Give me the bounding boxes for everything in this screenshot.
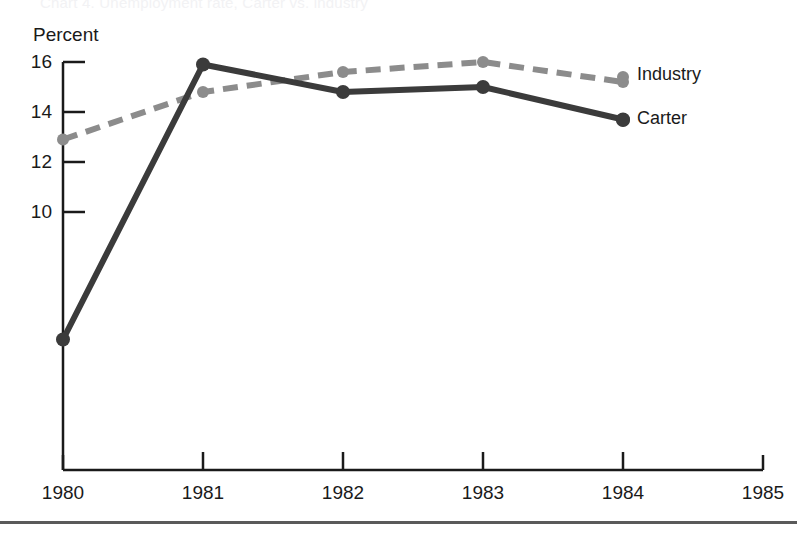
data-point-carter-1981: [196, 58, 210, 72]
line-chart-figure: Chart 4. Unemployment rate, Carter vs. i…: [0, 0, 797, 540]
data-point-carter-1983: [476, 80, 490, 94]
series-carter: [56, 58, 630, 347]
data-point-carter-1982: [336, 85, 350, 99]
data-point-industry-1983: [477, 56, 489, 68]
data-point-industry-1982: [337, 66, 349, 78]
plot-canvas: [0, 0, 797, 540]
data-point-industry-1980: [57, 134, 69, 146]
bottom-divider-rule: [0, 521, 797, 524]
data-point-carter-1980: [56, 333, 70, 347]
series-carter-line: [63, 65, 623, 340]
legend-marker-industry: [617, 71, 629, 83]
legend-marker-carter: [616, 113, 630, 127]
data-point-industry-1981: [197, 86, 209, 98]
